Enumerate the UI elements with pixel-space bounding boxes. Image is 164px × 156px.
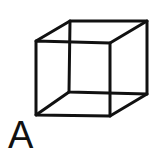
figure-label: A [8,116,33,154]
front-face [36,41,110,116]
back-face [69,21,147,94]
edge-top-right [110,21,147,43]
edge-bottom-right [110,94,147,116]
edge-top-left [36,21,70,41]
edge-bottom-left [36,92,69,115]
